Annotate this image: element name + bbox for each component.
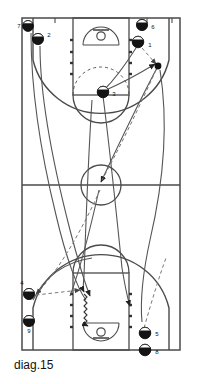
diagram-caption: diag.15 — [14, 358, 53, 372]
ball-marker-right-wing — [155, 63, 162, 70]
basketball-court-svg: 7 2 6 1 3 4 9 — [0, 0, 199, 384]
play-diagram-canvas: 7 2 6 1 3 4 9 — [0, 0, 199, 384]
